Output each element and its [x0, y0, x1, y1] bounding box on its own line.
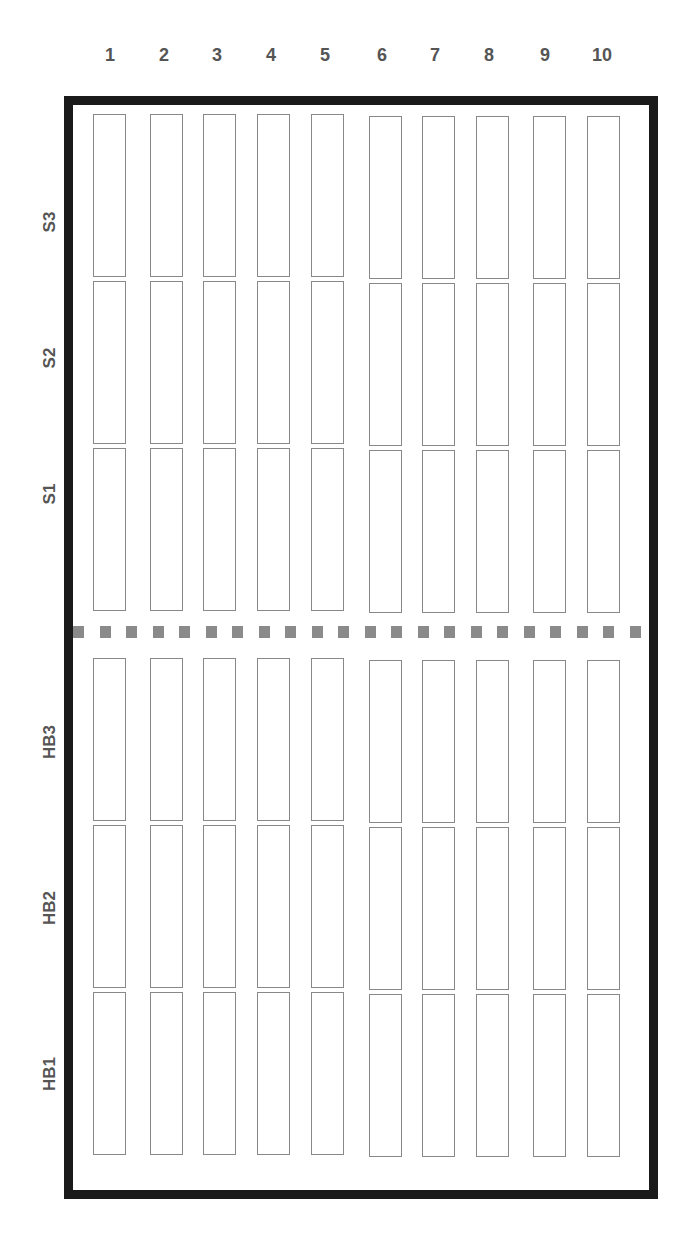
divider-dash — [312, 626, 323, 638]
bed-s2-col-6 — [369, 283, 402, 446]
column-label-8: 8 — [469, 45, 509, 66]
divider-dash — [126, 626, 137, 638]
divider-dash — [630, 626, 641, 638]
divider-dash — [179, 626, 190, 638]
bed-hb1-col-8 — [476, 994, 509, 1157]
column-label-9: 9 — [525, 45, 565, 66]
bed-s3-col-7 — [422, 116, 455, 279]
bed-hb3-col-6 — [369, 660, 402, 823]
bed-s3-col-3 — [203, 114, 236, 277]
bed-s3-col-5 — [311, 114, 344, 277]
bed-s2-col-1 — [93, 281, 126, 444]
divider-dash — [391, 626, 402, 638]
divider-dash — [285, 626, 296, 638]
bed-s2-col-7 — [422, 283, 455, 446]
column-label-7: 7 — [415, 45, 455, 66]
divider-dash — [497, 626, 508, 638]
bed-hb1-col-6 — [369, 994, 402, 1157]
divider-dash — [259, 626, 270, 638]
bed-s1-col-6 — [369, 450, 402, 613]
bed-s3-col-6 — [369, 116, 402, 279]
bed-s1-col-9 — [533, 450, 566, 613]
bed-hb1-col-3 — [203, 992, 236, 1155]
bed-s1-col-10 — [587, 450, 620, 613]
bed-s2-col-4 — [257, 281, 290, 444]
column-label-6: 6 — [362, 45, 402, 66]
divider-dash — [365, 626, 376, 638]
bed-hb2-col-8 — [476, 827, 509, 990]
bed-hb1-col-1 — [93, 992, 126, 1155]
bed-hb1-col-4 — [257, 992, 290, 1155]
bed-hb3-col-10 — [587, 660, 620, 823]
bed-s2-col-10 — [587, 283, 620, 446]
column-label-1: 1 — [90, 45, 130, 66]
column-label-10: 10 — [582, 45, 622, 66]
bed-hb2-col-9 — [533, 827, 566, 990]
bed-hb3-col-2 — [150, 658, 183, 821]
bed-hb3-col-1 — [93, 658, 126, 821]
bed-s2-col-5 — [311, 281, 344, 444]
bed-s3-col-8 — [476, 116, 509, 279]
bed-hb3-col-3 — [203, 658, 236, 821]
bed-hb2-col-2 — [150, 825, 183, 988]
bed-hb2-col-1 — [93, 825, 126, 988]
divider-dash — [153, 626, 164, 638]
divider-dash — [444, 626, 455, 638]
bed-s1-col-8 — [476, 450, 509, 613]
row-label-hb1: HB1 — [40, 1057, 60, 1091]
bed-s3-col-9 — [533, 116, 566, 279]
divider-dash — [524, 626, 535, 638]
bed-s1-col-5 — [311, 448, 344, 611]
divider-dash — [73, 626, 84, 638]
bed-s2-col-9 — [533, 283, 566, 446]
bed-hb2-col-4 — [257, 825, 290, 988]
divider-dash — [338, 626, 349, 638]
bed-hb2-col-3 — [203, 825, 236, 988]
bed-s2-col-2 — [150, 281, 183, 444]
bed-s3-col-2 — [150, 114, 183, 277]
column-label-2: 2 — [144, 45, 184, 66]
section-divider — [73, 626, 647, 638]
bed-s1-col-7 — [422, 450, 455, 613]
bed-s3-col-4 — [257, 114, 290, 277]
row-label-s3: S3 — [40, 212, 60, 233]
bed-hb3-col-7 — [422, 660, 455, 823]
bed-hb3-col-5 — [311, 658, 344, 821]
bed-hb3-col-8 — [476, 660, 509, 823]
bed-hb3-col-9 — [533, 660, 566, 823]
column-label-5: 5 — [305, 45, 345, 66]
bed-s1-col-2 — [150, 448, 183, 611]
divider-dash — [577, 626, 588, 638]
divider-dash — [206, 626, 217, 638]
divider-dash — [471, 626, 482, 638]
divider-dash — [418, 626, 429, 638]
bed-hb1-col-2 — [150, 992, 183, 1155]
bed-s2-col-8 — [476, 283, 509, 446]
row-label-hb2: HB2 — [40, 891, 60, 925]
bed-hb2-col-6 — [369, 827, 402, 990]
row-label-hb3: HB3 — [40, 725, 60, 759]
bed-s1-col-1 — [93, 448, 126, 611]
row-label-s1: S1 — [40, 484, 60, 505]
bed-hb1-col-5 — [311, 992, 344, 1155]
bed-s2-col-3 — [203, 281, 236, 444]
divider-dash — [603, 626, 614, 638]
bed-s3-col-10 — [587, 116, 620, 279]
bed-s3-col-1 — [93, 114, 126, 277]
bed-hb2-col-7 — [422, 827, 455, 990]
bed-hb3-col-4 — [257, 658, 290, 821]
bed-s1-col-3 — [203, 448, 236, 611]
divider-dash — [550, 626, 561, 638]
divider-dash — [100, 626, 111, 638]
column-label-3: 3 — [197, 45, 237, 66]
bed-hb2-col-5 — [311, 825, 344, 988]
column-label-4: 4 — [251, 45, 291, 66]
bed-hb1-col-9 — [533, 994, 566, 1157]
bed-hb1-col-10 — [587, 994, 620, 1157]
row-label-s2: S2 — [40, 348, 60, 369]
divider-dash — [232, 626, 243, 638]
bed-hb2-col-10 — [587, 827, 620, 990]
bed-s1-col-4 — [257, 448, 290, 611]
bed-hb1-col-7 — [422, 994, 455, 1157]
